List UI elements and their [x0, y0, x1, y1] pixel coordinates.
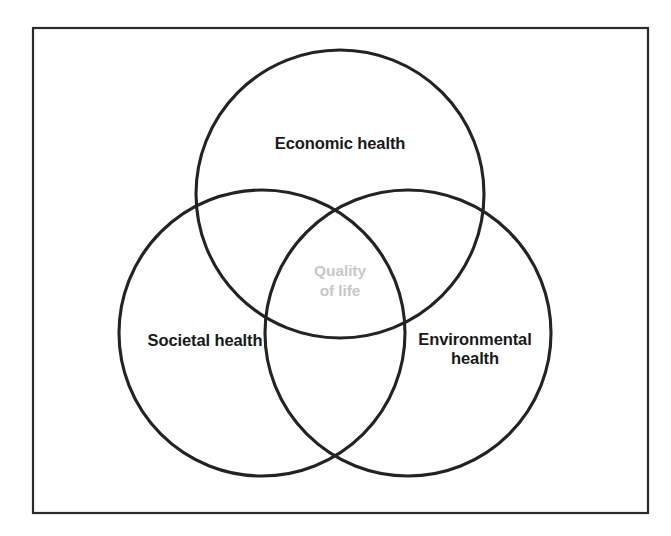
label-environmental-health: Environmental health: [400, 330, 550, 369]
venn-diagram: Economic health Societal health Environm…: [0, 0, 671, 536]
label-economic-health: Economic health: [230, 134, 450, 153]
label-quality-of-life: Quality of life: [285, 261, 395, 300]
label-societal-health: Societal health: [115, 331, 295, 350]
